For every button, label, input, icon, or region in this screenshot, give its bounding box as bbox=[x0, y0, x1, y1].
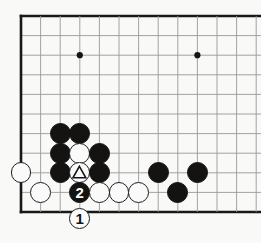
move-number-label: 2 bbox=[69, 182, 90, 203]
go-board[interactable] bbox=[0, 0, 261, 243]
stone-white[interactable] bbox=[89, 182, 110, 203]
stone-white[interactable] bbox=[128, 182, 149, 203]
stone-black[interactable] bbox=[50, 143, 71, 164]
stone-black[interactable] bbox=[50, 162, 71, 183]
stone-black[interactable] bbox=[167, 182, 188, 203]
star-point bbox=[194, 52, 200, 58]
triangle-marker-icon bbox=[69, 162, 90, 183]
stone-black[interactable] bbox=[148, 162, 169, 183]
stone-black[interactable] bbox=[89, 143, 110, 164]
stone-white[interactable] bbox=[30, 182, 51, 203]
stone-black[interactable] bbox=[187, 162, 208, 183]
stone-white[interactable] bbox=[109, 182, 130, 203]
star-point bbox=[77, 52, 83, 58]
stone-black[interactable] bbox=[89, 162, 110, 183]
stone-white[interactable] bbox=[69, 143, 90, 164]
go-diagram-screenshot: 2 1 bbox=[0, 0, 261, 243]
stone-black[interactable] bbox=[50, 123, 71, 144]
